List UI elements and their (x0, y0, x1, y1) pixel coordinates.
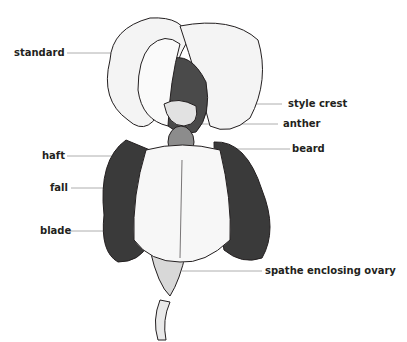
label-fall: fall (50, 182, 68, 194)
label-standard: standard (14, 47, 65, 59)
label-haft: haft (42, 150, 65, 162)
stem (155, 300, 170, 340)
label-blade: blade (40, 225, 71, 237)
label-style-crest: style crest (288, 98, 347, 110)
label-beard: beard (292, 143, 325, 155)
label-anther: anther (283, 118, 320, 130)
flower (103, 18, 270, 340)
label-spathe: spathe enclosing ovary (265, 265, 396, 277)
